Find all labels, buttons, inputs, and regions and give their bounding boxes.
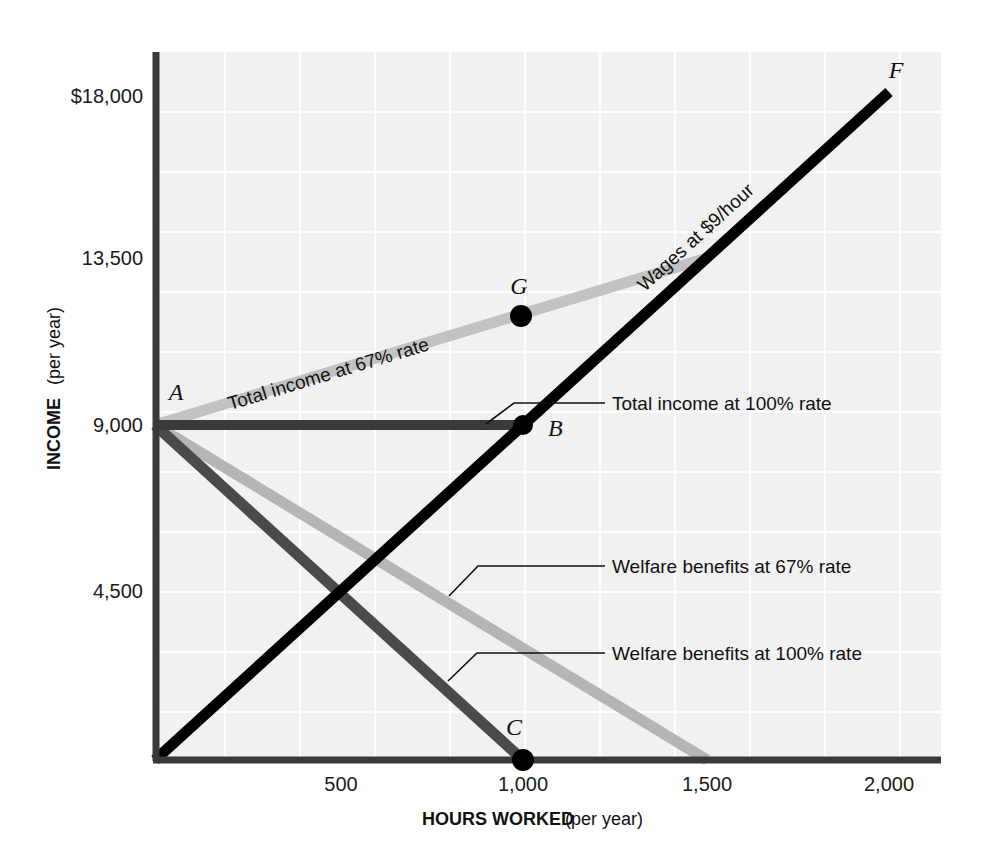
y-axis-title-sub: (per year) bbox=[44, 307, 64, 385]
y-axis-title-bold: INCOME bbox=[44, 398, 64, 470]
point-label-G: G bbox=[510, 273, 527, 299]
point-dot-G bbox=[510, 305, 532, 327]
point-dot-B bbox=[513, 415, 533, 435]
x-tick-500: 500 bbox=[324, 773, 357, 795]
x-axis-title-bold: HOURS WORKED bbox=[422, 809, 574, 829]
y-axis-title: INCOME (per year) bbox=[44, 307, 64, 470]
y-tick-4500: 4,500 bbox=[93, 580, 143, 602]
y-tick-9000: 9,000 bbox=[93, 414, 143, 436]
point-label-F: F bbox=[888, 57, 904, 83]
callout-total-income-100: Total income at 100% rate bbox=[612, 393, 832, 414]
point-label-C: C bbox=[506, 714, 523, 740]
income-vs-hours-chart: A B C F G $18,000 13,500 9,000 4,500 500… bbox=[0, 0, 999, 863]
x-axis-title-sub: (per year) bbox=[565, 809, 643, 829]
callout-welfare-67: Welfare benefits at 67% rate bbox=[612, 556, 851, 577]
y-tick-18000: $18,000 bbox=[71, 85, 143, 107]
x-tick-1000: 1,000 bbox=[498, 773, 548, 795]
x-tick-1500: 1,500 bbox=[682, 773, 732, 795]
figure-container: A B C F G $18,000 13,500 9,000 4,500 500… bbox=[0, 0, 999, 863]
x-tick-2000: 2,000 bbox=[864, 773, 914, 795]
y-tick-13500: 13,500 bbox=[82, 247, 143, 269]
point-label-A: A bbox=[167, 379, 184, 405]
point-label-B: B bbox=[548, 415, 563, 441]
point-dot-C bbox=[512, 749, 534, 771]
callout-welfare-100: Welfare benefits at 100% rate bbox=[612, 643, 862, 664]
x-axis-title: HOURS WORKED (per year) bbox=[422, 809, 643, 829]
